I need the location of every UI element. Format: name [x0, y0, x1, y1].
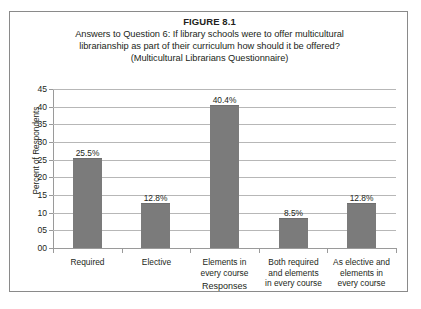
x-axis-title: Responses: [53, 281, 396, 291]
figure-title-block: FIGURE 8.1 Answers to Question 6: If lib…: [10, 16, 409, 64]
x-axis-category-label-line: As elective and: [327, 257, 396, 268]
figure-frame: FIGURE 8.1 Answers to Question 6: If lib…: [9, 11, 408, 292]
y-axis-tick-label: 30: [27, 137, 47, 147]
x-axis-category-label-line: Required: [53, 257, 122, 268]
bar-value-label: 12.8%: [144, 193, 168, 203]
x-axis-category-label-line: every course: [190, 268, 259, 279]
y-axis-tick-label: 15: [27, 190, 47, 200]
x-axis-category-label-line: elements in: [327, 268, 396, 279]
bar-chart: Percent of Respondents 00051015202530354…: [10, 68, 409, 293]
y-axis-tick: [49, 107, 53, 108]
x-axis-category-label: Elective: [122, 257, 191, 268]
gridline: [53, 89, 396, 90]
x-axis-category-label: Required: [53, 257, 122, 268]
figure-title-line-3: (Multicultural Librarians Questionnaire): [10, 52, 409, 64]
y-axis-tick: [49, 160, 53, 161]
plot-area: 00051015202530354045 25.5%12.8%40.4%8.5%…: [53, 89, 396, 248]
figure-number: FIGURE 8.1: [10, 16, 409, 28]
y-axis-tick: [49, 213, 53, 214]
x-axis-category-label-line: Both required: [259, 257, 328, 268]
y-axis-tick-label: 10: [27, 208, 47, 218]
y-axis-tick-label: 20: [27, 172, 47, 182]
bar: 12.8%: [141, 203, 170, 248]
x-axis-category-label-line: Elective: [122, 257, 191, 268]
x-axis-tick: [122, 248, 123, 253]
y-axis-tick: [49, 124, 53, 125]
bar-value-label: 25.5%: [76, 148, 100, 158]
bar: 8.5%: [279, 218, 308, 248]
y-axis-tick-label: 25: [27, 155, 47, 165]
y-axis-tick-label: 35: [27, 119, 47, 129]
y-axis-tick: [49, 230, 53, 231]
figure-title-line-2: librarianship as part of their curriculu…: [10, 40, 409, 52]
y-axis-tick-label: 45: [27, 84, 47, 94]
y-axis-tick: [49, 177, 53, 178]
y-axis-line: [53, 89, 54, 248]
bar: 12.8%: [347, 203, 376, 248]
x-axis-tick: [190, 248, 191, 253]
bar-value-label: 12.8%: [350, 193, 374, 203]
y-axis-tick: [49, 142, 53, 143]
x-axis-tick: [396, 248, 397, 253]
y-axis-tick-label: 40: [27, 102, 47, 112]
gridline: [53, 248, 396, 249]
x-axis-tick: [259, 248, 260, 253]
y-axis-tick: [49, 195, 53, 196]
figure-title-line-1: Answers to Question 6: If library school…: [10, 28, 409, 40]
x-axis-tick: [327, 248, 328, 253]
y-axis-tick: [49, 89, 53, 90]
x-axis-tick: [53, 248, 54, 253]
y-axis-tick-label: 05: [27, 225, 47, 235]
x-axis-category-label: Elements inevery course: [190, 257, 259, 278]
bar-value-label: 8.5%: [284, 208, 303, 218]
bar-value-label: 40.4%: [213, 95, 237, 105]
bar: 25.5%: [73, 158, 102, 248]
bar: 40.4%: [210, 105, 239, 248]
x-axis-category-label-line: and elements: [259, 268, 328, 279]
y-axis-tick-label: 00: [27, 243, 47, 253]
x-axis-category-label-line: Elements in: [190, 257, 259, 268]
